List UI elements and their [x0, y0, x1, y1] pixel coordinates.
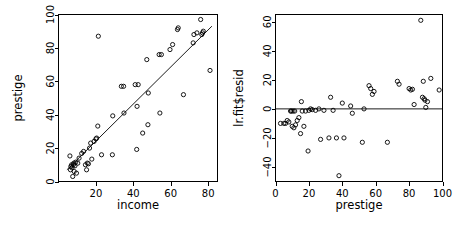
data-point	[158, 111, 162, 115]
data-point	[299, 100, 303, 104]
data-point	[208, 68, 212, 72]
data-point	[96, 34, 100, 38]
data-point	[412, 102, 416, 106]
right-y-axis-ticks: −40−200204060	[262, 15, 276, 177]
tick-label: 60	[369, 188, 382, 199]
data-point	[135, 147, 139, 151]
data-point	[298, 131, 302, 135]
data-point	[318, 137, 322, 141]
tick-label: 60	[262, 15, 273, 28]
data-point	[111, 114, 115, 118]
right-x-axis-ticks: 020406080100	[272, 182, 452, 199]
data-point	[327, 136, 331, 140]
regression-line	[67, 26, 212, 170]
scatter-panel-income-prestige: 020406080100 20406080 income prestige	[0, 0, 231, 229]
data-point	[71, 174, 75, 178]
tick-label: 20	[262, 73, 273, 86]
data-point	[306, 149, 310, 153]
tick-label: 80	[403, 188, 416, 199]
right-plot-box	[276, 15, 443, 182]
tick-label: 40	[127, 188, 140, 199]
data-point	[68, 154, 72, 158]
data-point	[385, 140, 389, 144]
tick-label: 20	[303, 188, 316, 199]
tick-label: 60	[45, 75, 56, 88]
data-point	[84, 168, 88, 172]
left-y-axis-label: prestige	[11, 75, 25, 122]
data-point	[342, 136, 346, 140]
figure-root: 020406080100 20406080 income prestige −4…	[0, 0, 463, 229]
left-x-axis-ticks: 20406080	[90, 182, 215, 199]
tick-label: 80	[202, 188, 215, 199]
tick-label: 100	[45, 5, 56, 24]
data-point	[96, 124, 100, 128]
data-point	[168, 47, 172, 51]
tick-label: 20	[45, 142, 56, 155]
data-point	[99, 153, 103, 157]
data-point	[135, 104, 139, 108]
tick-label: 40	[262, 44, 273, 57]
data-point	[350, 111, 354, 115]
tick-label: 0	[272, 188, 278, 199]
tick-label: −40	[262, 156, 273, 177]
data-point	[110, 153, 114, 157]
data-point	[334, 136, 338, 140]
data-point	[90, 157, 94, 161]
tick-label: 20	[90, 188, 103, 199]
tick-label: 40	[336, 188, 349, 199]
data-point	[337, 174, 341, 178]
right-plot-svg: −40−200204060 020406080100 prestige lr.f…	[231, 0, 463, 229]
scatter-panel-prestige-residuals: −40−200204060 020406080100 prestige lr.f…	[231, 0, 462, 229]
data-point	[340, 101, 344, 105]
data-point	[329, 95, 333, 99]
tick-label: 0	[45, 178, 56, 184]
left-x-axis-label: income	[117, 198, 159, 212]
tick-label: 40	[45, 108, 56, 121]
data-point	[141, 131, 145, 135]
tick-label: 0	[262, 106, 273, 112]
data-point	[429, 76, 433, 80]
left-y-axis-ticks: 020406080100	[45, 5, 59, 185]
left-plot-svg: 020406080100 20406080 income prestige	[0, 0, 231, 229]
data-point	[87, 146, 91, 150]
data-point	[360, 140, 364, 144]
data-point	[171, 42, 175, 46]
left-plot-box	[59, 15, 218, 182]
data-point	[302, 124, 306, 128]
tick-label: 60	[164, 188, 177, 199]
data-point	[146, 123, 150, 127]
tick-label: 80	[45, 42, 56, 55]
data-point	[145, 57, 149, 61]
right-x-axis-label: prestige	[336, 198, 383, 212]
data-point	[146, 91, 150, 95]
right-y-axis-label: lr.fit$resid	[232, 69, 246, 127]
right-data-points	[278, 18, 441, 178]
data-point	[349, 104, 353, 108]
data-point	[199, 17, 203, 21]
data-point	[419, 18, 423, 22]
data-point	[437, 88, 441, 92]
tick-label: −20	[262, 127, 273, 148]
data-point	[181, 93, 185, 97]
data-point	[421, 79, 425, 83]
data-point	[136, 83, 140, 87]
tick-label: 100	[433, 188, 452, 199]
